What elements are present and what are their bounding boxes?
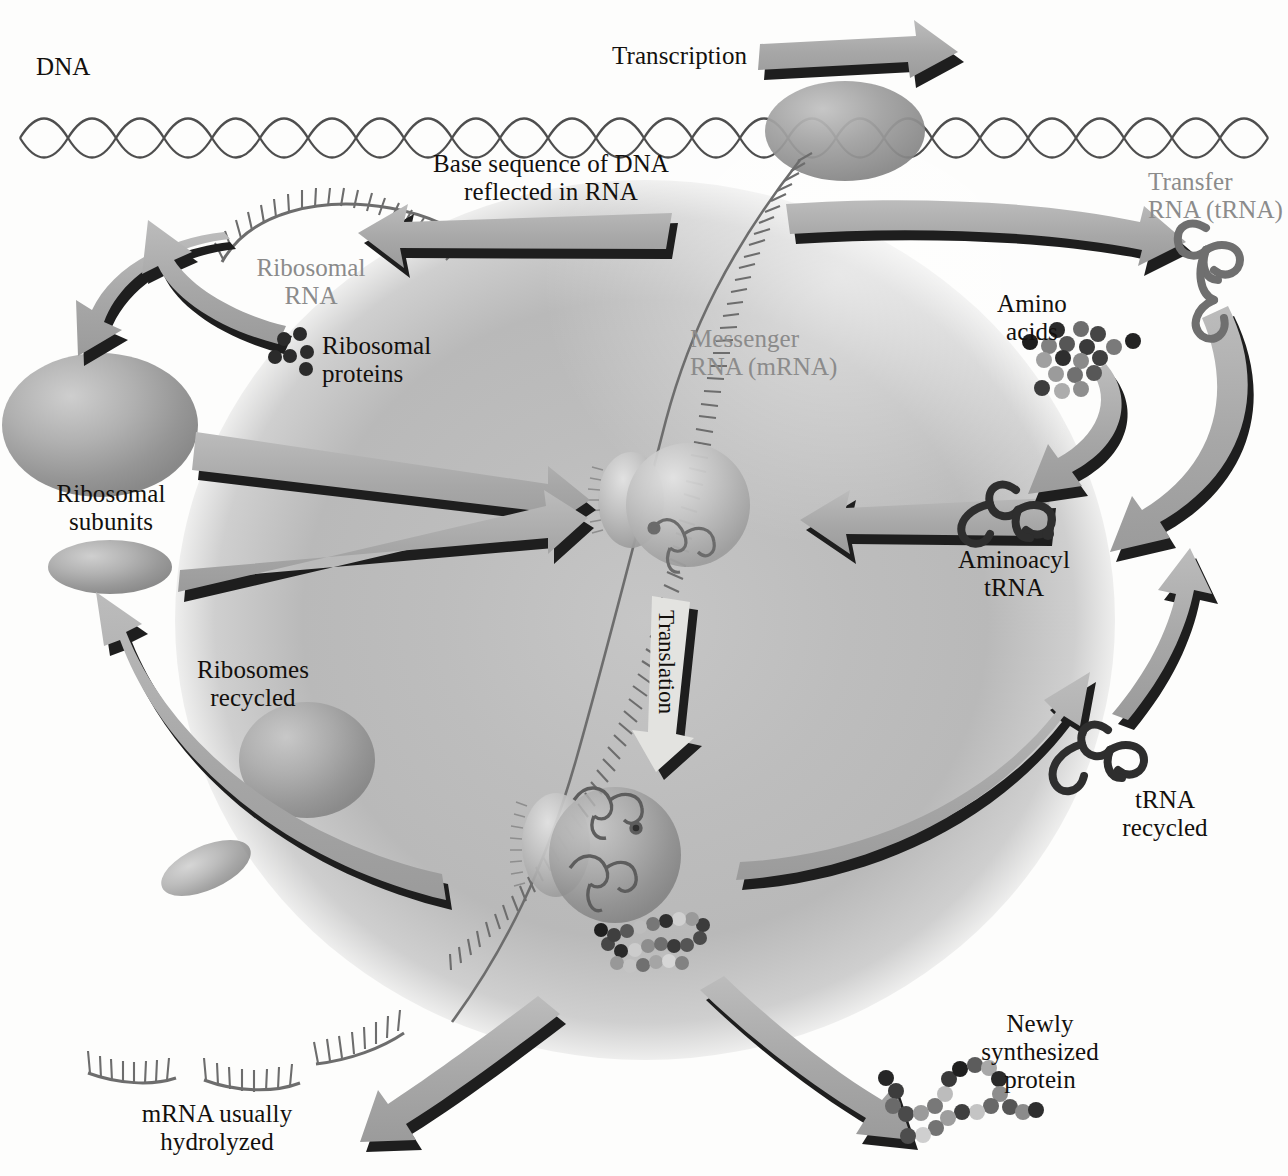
trna-cloverleaf-icon (1178, 224, 1240, 339)
gene-expression-diagram: DNA Transcription Base sequence of DNA r… (0, 0, 1288, 1176)
amino-acid-dots-icon (1022, 321, 1141, 399)
translation-label: Translation (653, 610, 679, 714)
aminoacyl-trna-icon (961, 485, 1054, 544)
ribosomal-protein-dots-icon (268, 327, 314, 376)
trna-recycled-icon (1053, 725, 1144, 791)
polypeptide-chain-icon (878, 1057, 1044, 1144)
molecule-layer (0, 0, 1288, 1176)
